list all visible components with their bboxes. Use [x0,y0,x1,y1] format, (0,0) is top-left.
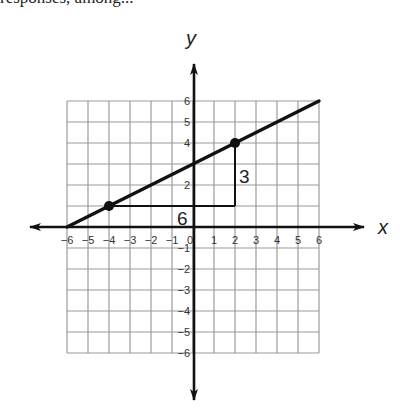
x-tick-label: −4 [103,234,116,246]
y-tick-label: −4 [177,305,190,317]
axes [30,64,364,400]
data-point [230,138,240,148]
x-tick-label: −1 [166,234,179,246]
x-tick-label: 5 [295,234,301,246]
x-tick-label: 3 [253,234,259,246]
x-tick-label: −5 [82,234,95,246]
x-tick-label: 4 [274,234,280,246]
data-point [104,201,114,211]
x-tick-label: 1 [211,234,217,246]
y-tick-label: −1 [177,242,190,254]
y-tick-label: 5 [184,116,190,128]
x-tick-label: 6 [316,234,322,246]
y-tick-label: −2 [177,263,190,275]
y-tick-label: −5 [177,326,190,338]
x-tick-label: −3 [124,234,137,246]
y-tick-label: 4 [184,137,190,149]
y-tick-label: 2 [184,179,190,191]
y-tick-label: −6 [177,347,190,359]
run-label: 6 [177,208,188,229]
x-tick-label: −2 [145,234,158,246]
y-tick-label: −3 [177,284,190,296]
y-axis-label: y [184,27,197,49]
y-tick-label: 6 [184,95,190,107]
x-tick-label: −6 [61,234,74,246]
coordinate-plane: −6−5−4−3−2−101234566542−1−2−3−4−5−6 63 x… [0,0,406,414]
x-axis-label: x [377,216,389,238]
rise-label: 3 [239,166,250,187]
x-tick-label: 2 [232,234,238,246]
